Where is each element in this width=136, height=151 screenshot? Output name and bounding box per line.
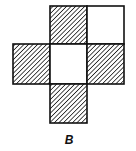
net-cell-middle-right: [87, 44, 124, 84]
net-cell-top-left: [50, 6, 87, 44]
cube-net-diagram: [0, 0, 136, 151]
net-cell-top-right: [87, 6, 124, 44]
net-cell-middle-left: [13, 44, 50, 84]
net-cell-bottom: [50, 84, 87, 123]
figure-label: B: [62, 133, 76, 147]
net-cell-middle-center: [50, 44, 87, 84]
